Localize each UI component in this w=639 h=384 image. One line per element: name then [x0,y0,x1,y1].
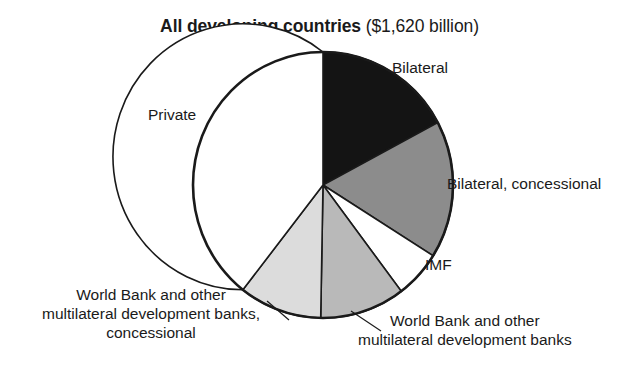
pie-label-bilateral: Bilateral [392,58,448,77]
pie-label-imf: IMF [425,255,452,274]
pie-label-private: Private [148,105,196,124]
pie-label-bilateral-concessional: Bilateral, concessional [447,174,601,193]
pie-label-world-bank-mdb: World Bank and other multilateral develo… [358,311,572,349]
pie-label-world-bank-mdb-concessional: World Bank and other multilateral develo… [26,285,276,342]
pie-chart-figure: All developing countries ($1,620 billion… [0,0,639,384]
